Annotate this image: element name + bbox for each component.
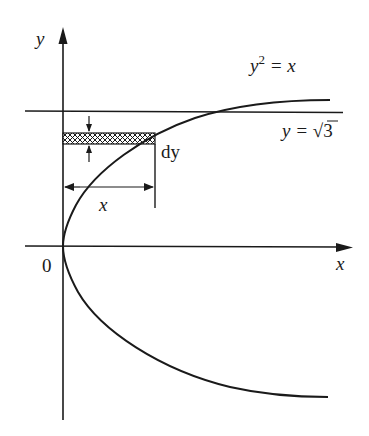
dy-label: dy	[161, 141, 181, 162]
strip-width-label: x	[98, 194, 108, 215]
line-y-sqrt3	[25, 111, 343, 113]
y-axis-arrow-icon	[59, 27, 68, 44]
y-axis-label: y	[34, 28, 45, 49]
x-axis-arrow-icon	[336, 243, 353, 252]
x-axis-label: x	[335, 253, 345, 274]
x-axis	[25, 243, 353, 252]
svg-text:y = √3: y = √3	[280, 120, 333, 141]
curve-equation-label: y2 = x	[248, 52, 296, 76]
origin-label: 0	[42, 255, 52, 276]
line-equation-label: y = √3	[280, 120, 338, 141]
parabola-area-diagram: y x 0 y2 = x y = √3 dy x	[0, 0, 369, 436]
y-axis	[59, 27, 68, 420]
